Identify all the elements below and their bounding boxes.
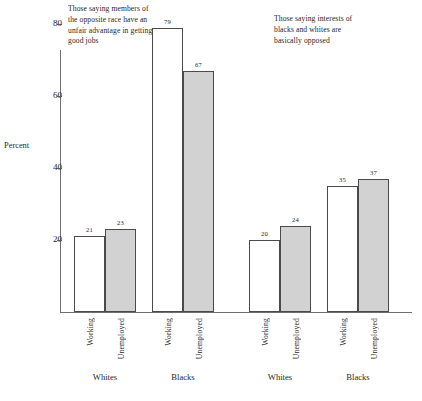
plot-area: 2123796720243537 [0, 0, 422, 312]
group-label: Whites [250, 372, 310, 382]
bar-value-label: 23 [105, 219, 136, 226]
bar-value-label: 21 [74, 226, 105, 233]
bar-value-label: 79 [152, 18, 183, 25]
bar [327, 186, 358, 312]
y-tick-mark-80 [57, 24, 62, 25]
category-label: Unemployed [195, 318, 204, 359]
bar-value-label: 20 [249, 230, 280, 237]
group-label: Blacks [153, 372, 213, 382]
bar [358, 179, 389, 312]
category-label: Unemployed [117, 318, 126, 359]
category-label: Working [261, 318, 270, 346]
category-label: Working [86, 318, 95, 346]
category-label: Unemployed [370, 318, 379, 359]
bar [152, 28, 183, 312]
bar [74, 236, 105, 312]
bar [249, 240, 280, 312]
x-axis-line [60, 312, 412, 313]
bar-value-label: 67 [183, 61, 214, 68]
bar-value-label: 37 [358, 169, 389, 176]
group-label: Blacks [328, 372, 388, 382]
group-label: Whites [75, 372, 135, 382]
category-label: Working [164, 318, 173, 346]
bar-value-label: 35 [327, 176, 358, 183]
category-label: Working [339, 318, 348, 346]
y-tick-mark-40 [57, 168, 62, 169]
bar-value-label: 24 [280, 216, 311, 223]
bar [280, 226, 311, 312]
bar [105, 229, 136, 312]
category-label: Unemployed [292, 318, 301, 359]
y-tick-mark-20 [57, 240, 62, 241]
chart-figure: Those saying members of the opposite rac… [0, 0, 422, 401]
y-tick-mark-60 [57, 96, 62, 97]
bar [183, 71, 214, 312]
